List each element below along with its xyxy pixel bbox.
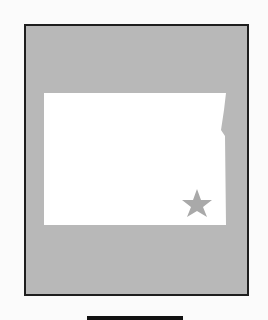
map-canvas <box>0 0 268 320</box>
footer-bar <box>87 316 183 320</box>
